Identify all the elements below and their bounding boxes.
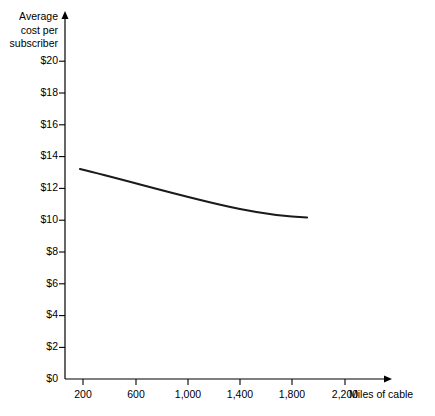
x-axis-ticks bbox=[83, 379, 345, 385]
y-axis-arrowhead bbox=[62, 11, 69, 19]
axis-lines bbox=[62, 11, 393, 383]
cost-curve-line bbox=[80, 169, 307, 218]
cost-curve-chart: Average cost per subscriber $20 $18 $16 … bbox=[0, 0, 435, 416]
y-axis-ticks bbox=[59, 61, 65, 347]
x-axis-arrowhead bbox=[384, 376, 392, 383]
chart-canvas bbox=[0, 0, 435, 416]
